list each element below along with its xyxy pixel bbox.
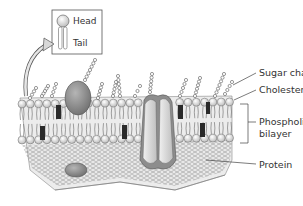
tail-label: Tail	[73, 38, 88, 48]
transmembrane-protein	[140, 95, 176, 169]
protein-label: Protein	[259, 159, 292, 170]
cell-membrane-diagram: Head Tail Sugar chains Cholesterol Phosp…	[0, 0, 303, 206]
membrane-base	[20, 96, 232, 190]
phospholipid-bilayer-label-line1: Phospholipid	[259, 116, 303, 127]
head-label: Head	[73, 16, 97, 26]
sugar-chains-label: Sugar chains	[259, 67, 303, 78]
cholesterol-label: Cholesterol	[259, 84, 303, 95]
phospholipid-bilayer-label-line2: bilayer	[259, 128, 292, 139]
curved-arrow	[25, 38, 54, 96]
peripheral-protein-bottom	[65, 163, 87, 177]
sugar-chains	[28, 58, 233, 99]
membrane-illustration	[0, 0, 303, 206]
peripheral-protein-top	[65, 81, 91, 115]
